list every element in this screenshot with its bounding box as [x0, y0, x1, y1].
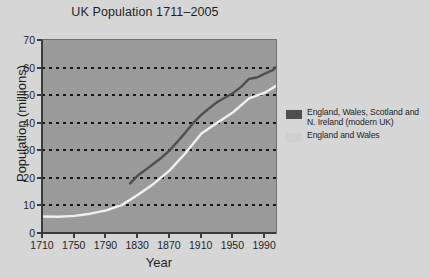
legend-swatch-1 — [286, 133, 302, 142]
y-tick-40 — [37, 122, 42, 124]
series-line-0 — [130, 67, 276, 183]
plot-top-border — [41, 39, 277, 40]
x-tick-1710 — [41, 233, 43, 238]
x-tick-label-1870: 1870 — [157, 240, 180, 251]
x-axis-line — [41, 232, 277, 234]
x-tick-1790 — [104, 233, 106, 238]
x-axis-label: Year — [42, 255, 276, 270]
x-tick-label-1950: 1950 — [221, 240, 244, 251]
y-tick-60 — [37, 67, 42, 69]
x-tick-1830 — [136, 233, 138, 238]
legend-swatch-0 — [286, 110, 302, 119]
x-tick-label-1830: 1830 — [125, 240, 148, 251]
legend-label-1: England and Wales — [307, 131, 380, 141]
legend-item-1[interactable]: England and Wales — [286, 131, 428, 142]
x-tick-1750 — [73, 233, 75, 238]
x-tick-label-1750: 1750 — [62, 240, 85, 251]
x-tick-label-1910: 1910 — [189, 240, 212, 251]
y-tick-30 — [37, 149, 42, 151]
legend-item-0[interactable]: England, Wales, Scotland andN. Ireland (… — [286, 108, 428, 127]
x-tick-1910 — [200, 233, 202, 238]
chart-figure: UK Population 1711–2005 010203040506070 … — [0, 0, 430, 278]
series-layer — [42, 40, 276, 233]
series-line-1 — [43, 86, 276, 217]
x-tick-label-1990: 1990 — [252, 240, 275, 251]
plot-right-border — [276, 39, 277, 234]
x-tick-1990 — [263, 233, 265, 238]
x-tick-1950 — [231, 233, 233, 238]
x-tick-1870 — [168, 233, 170, 238]
y-tick-10 — [37, 204, 42, 206]
plot-area — [42, 40, 276, 233]
chart-title: UK Population 1711–2005 — [0, 5, 290, 19]
x-tick-label-1790: 1790 — [94, 240, 117, 251]
plot-region: 010203040506070 171017501790183018701910… — [42, 40, 276, 233]
y-tick-50 — [37, 94, 42, 96]
chart-legend: England, Wales, Scotland andN. Ireland (… — [286, 108, 428, 146]
y-axis-label: Population (millions) — [14, 24, 29, 224]
legend-label-0: England, Wales, Scotland andN. Ireland (… — [307, 108, 419, 127]
y-tick-20 — [37, 177, 42, 179]
y-tick-label-0: 0 — [29, 228, 35, 239]
y-tick-70 — [37, 39, 42, 41]
x-tick-label-1710: 1710 — [30, 240, 53, 251]
